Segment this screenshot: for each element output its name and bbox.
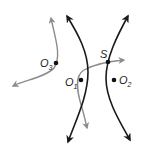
label-O3: O3 — [40, 57, 53, 71]
gray-path-near-O3 — [13, 18, 58, 86]
point-O1 — [79, 78, 84, 83]
label-O2: O2 — [119, 74, 132, 88]
point-O3 — [54, 61, 59, 66]
label-S: S — [100, 48, 108, 60]
label-O1: O1 — [65, 76, 78, 90]
point-S — [106, 60, 111, 65]
point-O2 — [112, 78, 117, 83]
hyperbola-diagram: S O1 O2 O3 — [0, 0, 155, 155]
